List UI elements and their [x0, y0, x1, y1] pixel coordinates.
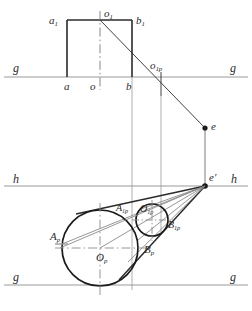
geometry-figure: a1 o1 b1 g g a o b o1p e e' h h A1p O1p	[0, 0, 252, 311]
label-h-right: h	[231, 173, 237, 185]
label-o: o	[90, 81, 96, 92]
label-Ap: Ap	[50, 231, 60, 242]
oblique-ray-o1-to-e	[100, 20, 205, 128]
label-Bp: Bp	[144, 244, 154, 255]
ray-eprime-to-Op	[100, 186, 205, 248]
label-g-top-right: g	[230, 62, 236, 74]
label-h-left: h	[13, 173, 19, 185]
label-Op: Op	[96, 252, 107, 263]
label-g-top-left: g	[13, 62, 19, 74]
label-o1: o1	[104, 8, 113, 19]
label-A1p: A1p	[116, 203, 128, 213]
label-o1p: o1p	[150, 60, 162, 71]
label-O1p: O1p	[140, 204, 153, 214]
label-a: a	[64, 81, 70, 92]
label-g-bottom-left: g	[13, 271, 19, 283]
label-B1p: B1p	[168, 220, 180, 230]
point-e-marker	[202, 125, 207, 130]
figure-canvas	[0, 0, 252, 311]
label-e: e	[211, 121, 216, 132]
label-e-prime: e'	[209, 172, 216, 183]
label-b: b	[126, 81, 132, 92]
ray-eprime-to-circle-lower	[128, 186, 205, 262]
cone-axis-line	[60, 186, 205, 248]
label-b1: b1	[136, 15, 145, 26]
label-g-bottom-right: g	[230, 271, 236, 283]
label-a1: a1	[49, 15, 58, 26]
